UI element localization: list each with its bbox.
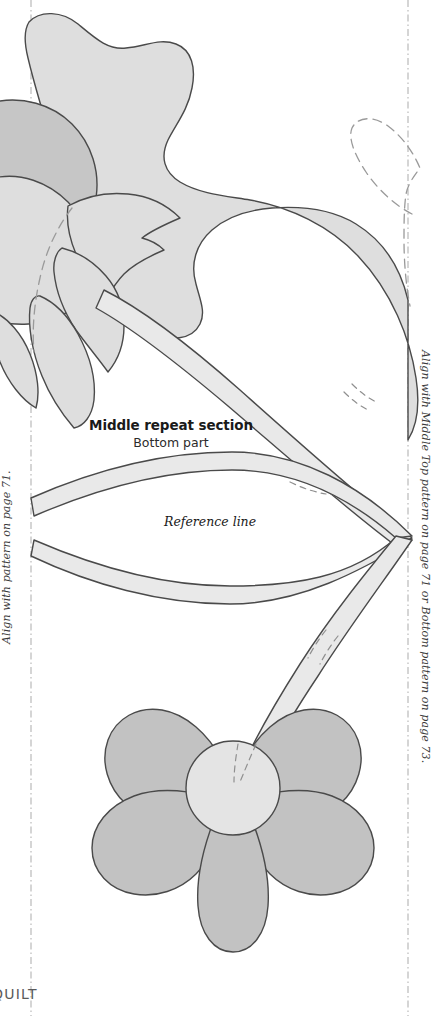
pattern-artwork: .outline { stroke: #4a4a4a; stroke-width… bbox=[0, 0, 446, 1016]
footer-crop-text: QUILT bbox=[0, 986, 38, 1002]
stem-accent-mark-upper bbox=[344, 384, 376, 410]
page-title: Middle repeat section bbox=[66, 417, 276, 434]
bottom-flower-center bbox=[186, 741, 280, 835]
section-heading: Middle repeat section Bottom part bbox=[66, 417, 276, 451]
align-left-label: Align with pattern on page 71. bbox=[0, 444, 13, 644]
align-right-label: Align with Middle Top pattern on page 71… bbox=[419, 350, 432, 680]
pattern-page: .outline { stroke: #4a4a4a; stroke-width… bbox=[0, 0, 446, 1016]
reference-line-label: Reference line bbox=[160, 514, 260, 529]
page-subtitle: Bottom part bbox=[66, 435, 276, 451]
